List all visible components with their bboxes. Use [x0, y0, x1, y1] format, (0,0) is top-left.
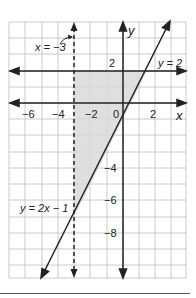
y-axis: [120, 22, 127, 278]
bottom-divider: [0, 293, 190, 294]
x-tick-neg6: −6: [22, 108, 35, 120]
line-y-equals-2x-minus-1: [41, 21, 170, 278]
x-tick-2: 2: [150, 108, 156, 120]
label-y-equals-2x-minus-1: y = 2x − 1: [19, 202, 68, 214]
label-pointer-arrowhead: [68, 35, 73, 40]
coordinate-plane: x = −3 y = 2 y = 2x − 1 y x 0 −6 −4 −2 2…: [0, 0, 196, 298]
y-axis-label: y: [127, 23, 136, 38]
origin-label: 0: [113, 108, 119, 120]
y-tick-2: 2: [109, 57, 115, 69]
y-tick-neg8: −8: [104, 227, 117, 239]
x-tick-neg2: −2: [85, 108, 98, 120]
label-x-equals-neg3: x = −3: [34, 41, 66, 53]
label-y-equals-2: y = 2: [157, 57, 182, 69]
x-axis-label: x: [175, 108, 183, 123]
y-tick-neg4: −4: [104, 162, 117, 174]
y-tick-neg6: −6: [104, 194, 117, 206]
x-tick-neg4: −4: [52, 108, 65, 120]
